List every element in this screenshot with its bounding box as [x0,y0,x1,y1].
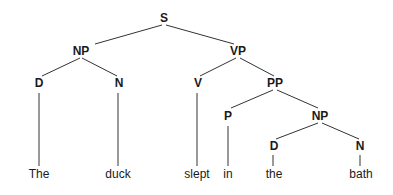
node-p: P [224,109,232,123]
node-d2: D [270,139,279,153]
word-slept: slept [184,167,210,181]
edge-np-n [82,58,117,76]
edge-np-d [42,58,80,76]
tree-leaves: The duck slept in the bath [29,167,373,181]
word-duck: duck [105,167,131,181]
edge-pp-np [277,90,318,108]
node-np: NP [73,44,90,58]
node-v: V [194,76,202,90]
edge-s-vp [166,25,234,44]
word-bath: bath [349,167,372,181]
word-the: The [29,167,50,181]
node-vp: VP [230,44,246,58]
edge-pp-p [231,90,273,108]
node-np2: NP [312,109,329,123]
parse-tree: S NP VP D N V PP P NP D N The duck slept… [0,0,393,195]
node-n2: N [356,139,365,153]
node-pp: PP [267,76,283,90]
tree-nodes: S NP VP D N V PP P NP D N [35,11,365,153]
word-the-2: the [266,167,283,181]
word-in: in [223,167,232,181]
node-n: N [115,76,124,90]
edge-np2-n [322,123,359,139]
edge-vp-v [200,58,236,76]
edge-s-np [95,25,162,44]
node-s: S [160,11,168,25]
edge-np2-d [276,123,318,139]
node-d: D [35,76,44,90]
edge-vp-pp [240,58,274,76]
